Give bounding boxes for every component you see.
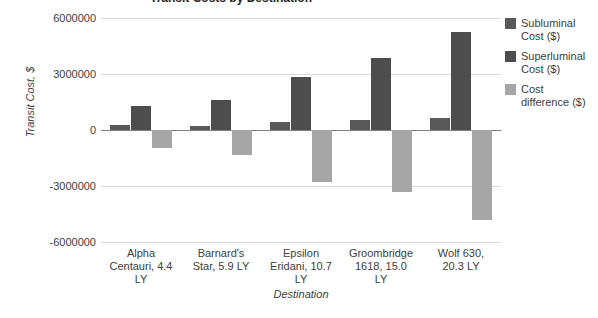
legend-swatch-icon — [505, 51, 516, 62]
x-axis-label-line: Wolf 630, — [421, 247, 501, 260]
y-tick-label: 0 — [14, 125, 96, 136]
x-axis-label-line: 20.3 LY — [421, 260, 501, 273]
bar-group — [341, 18, 421, 242]
bar-chart: Transit Costs by Destination Transit Cos… — [0, 0, 598, 318]
bar-subluminal[interactable] — [270, 122, 290, 130]
legend-label-line: Cost — [521, 83, 544, 95]
bar-superluminal[interactable] — [131, 106, 151, 130]
x-axis-label-line: Eridani, 10.7 — [261, 260, 341, 273]
y-tick-label: 3000000 — [14, 69, 96, 80]
legend-label-line: Subluminal — [521, 17, 575, 29]
bar-cost-difference[interactable] — [232, 130, 252, 155]
legend-swatch-icon — [505, 18, 516, 29]
bar-superluminal[interactable] — [451, 32, 471, 130]
x-axis-label-line: Star, 5.9 LY — [181, 260, 261, 273]
bar-group — [421, 18, 501, 242]
chart-legend: Subluminal Cost ($) Superluminal Cost ($… — [505, 17, 598, 116]
legend-label: Subluminal Cost ($) — [521, 17, 575, 43]
x-axis-title: Destination — [101, 288, 501, 300]
y-axis-tick-labels: 6000000 3000000 0 -3000000 -6000000 — [14, 0, 96, 260]
bar-subluminal[interactable] — [190, 126, 210, 130]
x-axis-label: Groombridge 1618, 15.0 LY — [341, 247, 421, 286]
bar-cost-difference[interactable] — [312, 130, 332, 182]
x-axis-label-line: Centauri, 4.4 — [101, 260, 181, 273]
legend-label: Superluminal Cost ($) — [521, 50, 585, 76]
y-tick-label: -3000000 — [14, 181, 96, 192]
legend-label-line: Cost ($) — [521, 63, 560, 75]
y-tick-label: -6000000 — [14, 237, 96, 248]
y-tick-label: 6000000 — [14, 13, 96, 24]
x-axis-label-line: Alpha — [101, 247, 181, 260]
x-axis-label-line: 1618, 15.0 — [341, 260, 421, 273]
bar-subluminal[interactable] — [430, 118, 450, 130]
bar-superluminal[interactable] — [371, 58, 391, 130]
x-axis-label: Epsilon Eridani, 10.7 LY — [261, 247, 341, 286]
bar-group — [261, 18, 341, 242]
bar-cost-difference[interactable] — [392, 130, 412, 192]
x-axis-label-line: LY — [341, 273, 421, 286]
x-axis-label: Alpha Centauri, 4.4 LY — [101, 247, 181, 286]
legend-item-subluminal[interactable]: Subluminal Cost ($) — [505, 17, 598, 43]
legend-label: Cost difference ($) — [521, 83, 586, 109]
legend-label-line: Cost ($) — [521, 30, 560, 42]
x-axis-label: Barnard's Star, 5.9 LY — [181, 247, 261, 273]
bar-subluminal[interactable] — [350, 120, 370, 130]
x-axis-label-line: LY — [101, 273, 181, 286]
bar-group — [101, 18, 181, 242]
x-axis-label-line: LY — [261, 273, 341, 286]
x-axis-label: Wolf 630, 20.3 LY — [421, 247, 501, 273]
chart-title-text: Transit Costs by Destination — [150, 0, 312, 5]
x-axis-label-line: Epsilon — [261, 247, 341, 260]
legend-item-superluminal[interactable]: Superluminal Cost ($) — [505, 50, 598, 76]
bar-cost-difference[interactable] — [472, 130, 492, 220]
legend-swatch-icon — [505, 84, 516, 95]
gridline-neg6000000 — [101, 242, 501, 243]
x-axis-label-line: Barnard's — [181, 247, 261, 260]
legend-label-line: Superluminal — [521, 50, 585, 62]
bar-superluminal[interactable] — [211, 100, 231, 130]
legend-item-cost-difference[interactable]: Cost difference ($) — [505, 83, 598, 109]
legend-label-line: difference ($) — [521, 96, 586, 108]
bar-superluminal[interactable] — [291, 77, 311, 130]
bar-cost-difference[interactable] — [152, 130, 172, 148]
bar-subluminal[interactable] — [110, 125, 130, 130]
plot-area — [101, 18, 501, 242]
x-axis-label-line: Groombridge — [341, 247, 421, 260]
bar-group — [181, 18, 261, 242]
